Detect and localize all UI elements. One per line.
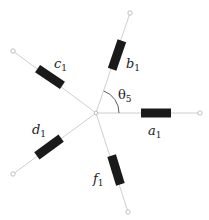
terminal-a (198, 111, 202, 115)
resistor-a (141, 109, 171, 118)
angle-arc (104, 91, 119, 113)
resistor-f (107, 154, 124, 185)
label-d: d1 (32, 122, 46, 139)
resistor-d (34, 135, 64, 160)
resistor-star-diagram: θ5 a1b1c1d1f1 (0, 0, 209, 220)
terminals (11, 11, 202, 214)
label-c: c1 (54, 56, 67, 73)
resistor-b (108, 39, 126, 70)
label-b: b1 (126, 56, 140, 73)
wires (13, 13, 200, 212)
terminal-d (11, 172, 15, 176)
terminal-f (126, 210, 130, 214)
angle-label: θ5 (118, 87, 132, 104)
label-a: a1 (148, 123, 162, 140)
terminal-c (11, 49, 15, 53)
terminal-b (128, 11, 132, 15)
label-f: f1 (92, 171, 104, 188)
center-node (94, 111, 98, 115)
